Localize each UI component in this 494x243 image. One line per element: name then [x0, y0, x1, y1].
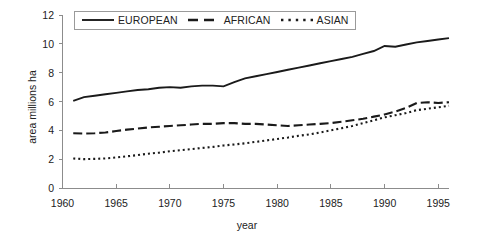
legend-label: AFRICAN [224, 14, 271, 26]
legend-swatch-dotted-icon [280, 15, 314, 25]
x-tick-label: 1965 [104, 198, 127, 209]
x-tick-label: 1985 [319, 198, 342, 209]
axis-lines [63, 15, 450, 188]
legend-item-european: EUROPEAN [81, 14, 178, 26]
y-axis-title: area millions ha [26, 47, 38, 167]
legend-item-asian: ASIAN [280, 14, 349, 26]
x-tick-label: 1990 [373, 198, 396, 209]
y-tick-label: 12 [24, 10, 54, 21]
legend-item-african: AFRICAN [187, 14, 271, 26]
chart-legend: EUROPEANAFRICANASIAN [74, 11, 356, 30]
x-tick-label: 1960 [51, 198, 74, 209]
series-lines [73, 38, 449, 159]
axis-tick-marks [59, 15, 439, 188]
series-line-european [73, 38, 449, 101]
series-line-african [73, 102, 449, 133]
series-line-asian [73, 106, 449, 159]
x-tick-label: 1970 [158, 198, 181, 209]
x-axis-title: year [0, 219, 494, 231]
x-tick-label: 1975 [212, 198, 235, 209]
x-tick-label: 1995 [427, 198, 450, 209]
line-chart: 024681012 196019651970197519801985199019… [0, 0, 494, 243]
legend-swatch-dashed-icon [187, 15, 221, 25]
y-tick-label: 0 [24, 183, 54, 194]
x-tick-label: 1980 [266, 198, 289, 209]
legend-label: ASIAN [317, 14, 349, 26]
legend-label: EUROPEAN [118, 14, 178, 26]
legend-swatch-solid-icon [81, 15, 115, 25]
